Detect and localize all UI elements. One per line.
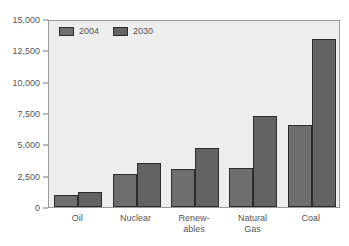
chart-legend: 20042030 xyxy=(59,27,153,36)
bar xyxy=(137,163,161,207)
y-tick-label: 15,000 xyxy=(12,16,40,25)
bar-group xyxy=(171,21,219,207)
legend-item: 2004 xyxy=(59,27,99,36)
y-tick-label: 10,000 xyxy=(12,78,40,87)
x-tick-label: Renew- ables xyxy=(178,213,209,235)
legend-label: 2030 xyxy=(133,27,153,36)
bar xyxy=(113,174,137,207)
y-tick-label: 2,500 xyxy=(17,172,40,181)
bar-group xyxy=(113,21,161,207)
bar xyxy=(253,116,277,207)
bar xyxy=(54,195,78,207)
bar xyxy=(229,168,253,207)
bars-container xyxy=(49,21,339,207)
bar xyxy=(312,39,336,207)
bar xyxy=(78,192,102,207)
x-tick-label: Oil xyxy=(72,213,83,224)
bar-group xyxy=(288,21,336,207)
x-tick-label: Coal xyxy=(302,213,321,224)
x-axis: OilNuclearRenew- ablesNatural GasCoal xyxy=(48,208,340,246)
bar xyxy=(171,169,195,207)
legend-swatch xyxy=(113,27,128,36)
y-tick-label: 5,000 xyxy=(17,141,40,150)
y-tick-label: 12,500 xyxy=(12,47,40,56)
legend-swatch xyxy=(59,27,74,36)
y-axis: 02,5005,0007,50010,00012,50015,000 xyxy=(0,0,48,246)
bar-group xyxy=(229,21,277,207)
y-tick-label: 7,500 xyxy=(17,110,40,119)
y-tick-label: 0 xyxy=(35,204,40,213)
bar-group xyxy=(54,21,102,207)
bar-chart: 02,5005,0007,50010,00012,50015,000 20042… xyxy=(0,0,349,246)
legend-label: 2004 xyxy=(79,27,99,36)
legend-item: 2030 xyxy=(113,27,153,36)
x-tick-label: Natural Gas xyxy=(238,213,267,235)
bar xyxy=(195,148,219,207)
bar xyxy=(288,125,312,207)
x-tick-label: Nuclear xyxy=(120,213,151,224)
plot-area: 20042030 xyxy=(48,20,340,208)
